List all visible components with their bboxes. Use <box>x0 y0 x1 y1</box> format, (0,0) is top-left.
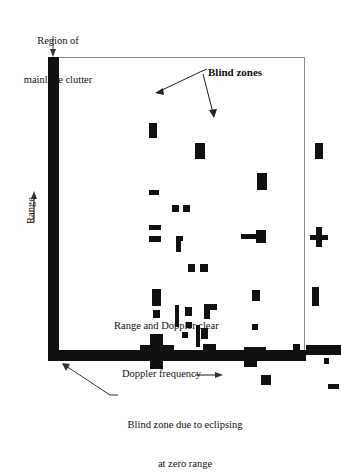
blind-zones-label: Blind zones <box>208 66 262 78</box>
mainlobe-clutter-line-2: mainlobe clutter <box>4 73 112 86</box>
eclipsing-line-1: Blind zone due to eclipsing <box>110 418 260 431</box>
mainlobe-clutter-line-1: Region of <box>4 34 112 47</box>
doppler-frequency-axis-label: Doppler frequency <box>122 368 201 379</box>
eclipsing-annotation: Blind zone due to eclipsing at zero rang… <box>110 392 260 473</box>
mainlobe-clutter-annotation: Region of mainlobe clutter <box>4 8 112 112</box>
eclipsing-line-2: at zero range <box>110 457 260 470</box>
range-axis-label: Range <box>25 179 36 243</box>
range-doppler-clear-label: Range and Doppler clear <box>114 320 219 331</box>
blind-zone-block <box>328 384 339 389</box>
blind-zone-block <box>324 358 329 364</box>
